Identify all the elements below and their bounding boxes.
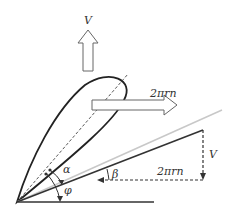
phi-dot [44, 172, 47, 175]
chord-line [17, 74, 128, 202]
alpha-dot [48, 168, 51, 171]
label-v-top: V [84, 14, 93, 27]
label-2pirn-top: 2πrn [149, 87, 177, 100]
zero-lift-line [17, 110, 222, 202]
phi-arrowhead [57, 196, 63, 202]
blade-outline [17, 77, 127, 202]
beta-arc [107, 169, 109, 180]
diagram-canvas: V 2πrn α β φ 2πrn V [0, 0, 232, 219]
label-phi: φ [64, 184, 72, 197]
axial-arrowhead [200, 173, 206, 180]
label-beta: β [111, 168, 118, 181]
axial-hollow-arrow [78, 30, 98, 71]
rotational-arrowhead [97, 177, 104, 183]
label-v-right: V [209, 148, 218, 161]
label-2pirn-bottom: 2πrn [156, 165, 184, 178]
label-alpha: α [63, 163, 71, 176]
